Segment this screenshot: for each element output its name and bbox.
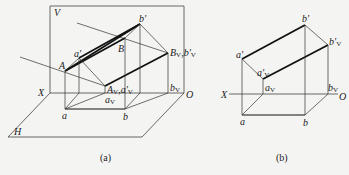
figure-b: X O a' b' a b a'V b'V aV bV (b) [220, 13, 346, 164]
label-aV: aV [265, 82, 275, 94]
h-plane [8, 93, 184, 137]
label-a: a [240, 116, 245, 127]
label-H: H [13, 126, 22, 137]
label-b: b [123, 111, 128, 122]
segment-AV-BV [105, 53, 168, 86]
caption-b: (b) [276, 152, 288, 164]
label-b-prime: b' [139, 13, 147, 24]
label-X: X [37, 87, 45, 98]
figure-a: V H X O A B a' b' a b AV,a'V BV,b'V aV b… [8, 6, 196, 164]
label-a: a [62, 110, 67, 121]
label-b-prime: b' [302, 13, 310, 24]
label-X: X [220, 89, 228, 100]
projection-diagram: V H X O A B a' b' a b AV,a'V BV,b'V aV b… [0, 0, 349, 175]
label-bV: bV [328, 82, 338, 94]
segment-a-prime-V-b-prime-V [263, 45, 328, 79]
label-O: O [339, 91, 346, 102]
label-b: b [303, 117, 308, 128]
label-b-prime-V: b'V [329, 36, 341, 48]
label-BV-b-prime-V: BV,b'V [170, 47, 196, 59]
label-bV: bV [170, 82, 180, 94]
label-a-prime-V: a'V [257, 67, 269, 79]
label-V: V [54, 7, 62, 18]
label-A: A [58, 60, 66, 71]
label-B: B [118, 43, 124, 54]
label-a-prime: a' [236, 49, 244, 60]
label-AV-a-prime-V: AV,a'V [106, 84, 133, 96]
caption-a: (a) [100, 152, 111, 164]
label-a-prime: a' [74, 48, 82, 59]
label-O: O [186, 89, 193, 100]
segment-a-prime-b-prime [242, 25, 305, 59]
